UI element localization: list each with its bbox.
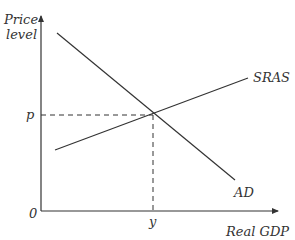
output-label: y xyxy=(148,214,157,229)
sras-curve xyxy=(55,78,248,150)
ad-label: AD xyxy=(233,185,254,200)
price-label: p xyxy=(26,107,35,122)
y-axis-label-line1: Price xyxy=(3,12,38,27)
x-axis-label: Real GDP xyxy=(225,224,289,239)
y-axis-label-line2: level xyxy=(6,27,37,42)
ad-curve xyxy=(57,33,235,180)
origin-label: 0 xyxy=(29,206,37,221)
sras-label: SRAS xyxy=(253,70,290,85)
ad-sras-diagram: Price level Real GDP 0 SRAS AD p y xyxy=(0,0,295,240)
